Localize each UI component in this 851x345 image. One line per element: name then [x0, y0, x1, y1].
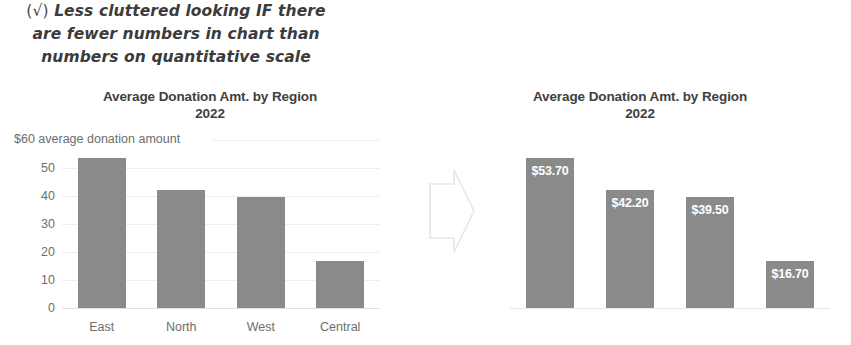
right-chart-title: Average Donation Amt. by Region 2022 [470, 88, 810, 122]
bar: $39.50 [686, 197, 734, 308]
left-chart-title-line2: 2022 [20, 105, 400, 122]
left-chart-axis-caption: average donation amount [38, 132, 180, 146]
bar-value-label: $39.50 [686, 203, 734, 217]
right-chart: Average Donation Amt. by Region 2022 $53… [430, 0, 851, 345]
category-label: Central [301, 320, 381, 334]
left-chart-axis-baseline [62, 308, 380, 309]
left-chart-title: Average Donation Amt. by Region 2022 [20, 88, 400, 122]
bar: $16.70 [766, 261, 814, 308]
bar: $42.20 [606, 190, 654, 308]
bar-value-label: $16.70 [766, 267, 814, 281]
category-label: West [221, 320, 301, 334]
left-chart: Average Donation Amt. by Region 2022 $60… [0, 0, 430, 345]
left-chart-y-tick-label: 30 [11, 218, 55, 230]
left-chart-y-tick-label: 20 [11, 246, 55, 258]
left-chart-y-tick-label: 40 [11, 190, 55, 202]
bar-value-label: $42.20 [606, 196, 654, 210]
left-chart-y-tick-label: 10 [11, 274, 55, 286]
bar [316, 261, 364, 308]
left-chart-gridline [212, 140, 380, 141]
right-chart-title-line1: Average Donation Amt. by Region [470, 88, 810, 105]
bar [237, 197, 285, 308]
left-chart-y-tick-label: 50 [11, 162, 55, 174]
bar [157, 190, 205, 308]
bar [78, 158, 126, 308]
right-chart-plot-area: $53.70$42.20$39.50$16.70 [510, 140, 830, 308]
right-chart-title-line2: 2022 [470, 105, 810, 122]
left-chart-plot-area: $60 average donation amount 50403020100 [62, 140, 380, 308]
left-chart-title-line1: Average Donation Amt. by Region [20, 88, 400, 105]
left-chart-axis-top-label: $60 average donation amount [14, 133, 180, 146]
category-label: North [142, 320, 222, 334]
left-chart-y-tick-label: 0 [11, 302, 55, 314]
bar-value-label: $53.70 [526, 164, 574, 178]
bar: $53.70 [526, 158, 574, 308]
category-label: East [62, 320, 142, 334]
right-chart-axis-baseline [510, 308, 830, 309]
left-chart-axis-max: $60 [14, 132, 35, 146]
